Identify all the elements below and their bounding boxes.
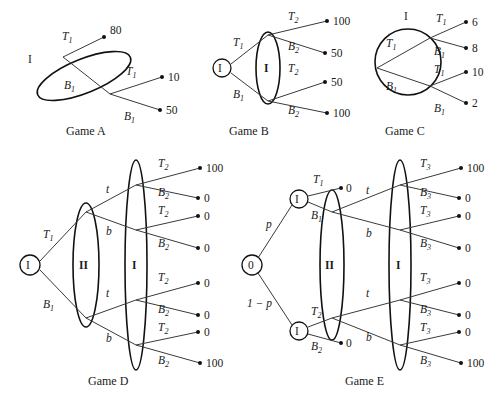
game-e-payoff-7: 0	[465, 326, 471, 338]
game-d-terminal-dot-2	[196, 196, 200, 200]
game-b-branch-label-b2-b: B2	[288, 104, 299, 119]
game-e-payoff-8: 100	[467, 357, 485, 369]
game-a-branch-label-b1: B1	[64, 79, 75, 94]
game-c-terminal-dot-2	[464, 46, 468, 50]
game-e-payoff-6: 0	[465, 309, 471, 321]
game-d-payoff-4: 0	[204, 242, 210, 254]
game-e-exit-payoff-2: 0	[346, 337, 352, 349]
game-d-edge-t-lower	[86, 300, 136, 318]
game-e-branch-label-b-upper: b	[366, 227, 372, 239]
game-d-branch-label-t-lower: t	[106, 287, 110, 299]
game-e-branch-label-b3-1: B3	[420, 186, 431, 201]
game-d-branch-label-b2-4: B2	[158, 354, 169, 369]
game-c-terminal-dot-1	[464, 20, 468, 24]
game-a-terminal-dot-2	[160, 75, 164, 79]
game-d-edge-b1	[40, 270, 86, 318]
game-c-infoset-label: I	[404, 10, 408, 22]
game-c-branch-label-t1-a: T1	[436, 12, 446, 27]
game-b-caption: Game B	[229, 124, 269, 138]
game-e-exit-payoff-1: 0	[346, 182, 352, 194]
game-b-branch-label-b2-a: B2	[288, 40, 299, 55]
game-b-terminal-dot-4	[325, 111, 329, 115]
game-d-branch-label-b1: B1	[43, 298, 54, 313]
game-d-edge-t-upper	[86, 185, 136, 212]
game-e-branch-label-b3-4: B3	[420, 354, 431, 369]
game-e-terminal-dot-1	[459, 166, 463, 170]
game-d-root-player-label: I	[26, 259, 30, 271]
game-e-branch-label-b3-3: B3	[420, 303, 431, 318]
game-d-payoff-7: 0	[204, 326, 210, 338]
game-e-payoff-1: 100	[467, 162, 485, 174]
game-e-branch-label-t-upper: t	[366, 184, 370, 196]
game-e-branch-label-t3-1: T3	[420, 157, 430, 172]
game-e-branch-label-b1: B1	[311, 209, 322, 224]
game-d-branch-label-b-lower: b	[106, 332, 112, 344]
game-e-branch-label-b2: B2	[311, 340, 322, 355]
game-d-terminal-dot-6	[196, 313, 200, 317]
game-e-branch-label-t-lower: t	[366, 287, 370, 299]
game-c-payoff-1: 6	[472, 16, 478, 28]
game-a-edge-b1-right	[110, 94, 160, 110]
game-b-group: I I T1 B1 T2 B2 T2 B2 100 50 50 100 Game…	[213, 10, 351, 138]
game-c-payoff-2: 8	[472, 42, 478, 54]
game-a-payoff-2: 10	[168, 71, 180, 83]
game-d-payoff-2: 0	[204, 192, 210, 204]
game-d-caption: Game D	[88, 374, 129, 388]
game-b-payoff-2: 50	[331, 47, 343, 59]
game-e-payoff-2: 0	[465, 192, 471, 204]
game-d-payoff-6: 0	[204, 309, 210, 321]
game-d-terminal-dot-7	[196, 330, 200, 334]
game-d-infoset-label-i: I	[132, 259, 137, 271]
game-c-terminal-dot-3	[464, 70, 468, 74]
game-tree-figure: I T1 B1 T1 B1 80 10 50 Game A I I T1 B1 …	[0, 0, 498, 401]
game-e-group: 0 I I II I	[242, 157, 485, 388]
game-d-branch-label-b-upper: b	[106, 225, 112, 237]
game-c-terminal-dot-4	[464, 101, 468, 105]
game-e-branch-label-t3-3: T3	[420, 271, 430, 286]
game-c-group: I T1 B1 T1 B1 T1 B1 6 8 10 2 Game C	[375, 10, 484, 138]
game-c-payoff-3: 10	[472, 66, 484, 78]
game-e-terminal-dot-7	[457, 330, 461, 334]
game-e-prob-label-p: p	[265, 218, 272, 231]
game-e-player-node-upper	[290, 190, 308, 208]
game-b-branch-label-t2-b: T2	[288, 62, 298, 77]
game-a-terminal-dot-1	[102, 35, 106, 39]
game-e-edge-p	[258, 205, 292, 258]
game-b-terminal-dot-1	[325, 19, 329, 23]
game-e-payoff-5: 0	[465, 277, 471, 289]
game-e-player-node-lower	[290, 322, 308, 340]
game-a-caption: Game A	[66, 124, 106, 138]
game-e-terminal-dot-5	[457, 281, 461, 285]
game-b-branch-label-b1: B1	[233, 88, 244, 103]
game-e-player-label-lower: I	[295, 325, 299, 337]
game-e-terminal-dot-6	[457, 313, 461, 317]
game-c-edge-t1	[377, 38, 430, 68]
game-d-payoff-8: 100	[206, 357, 224, 369]
game-e-caption: Game E	[345, 374, 384, 388]
game-d-branch-label-t1: T1	[43, 228, 53, 243]
game-b-payoff-4: 100	[333, 107, 351, 119]
game-e-infoset-label-ii: II	[325, 259, 334, 271]
game-d-branch-label-t2-2: T2	[158, 204, 168, 219]
game-c-edge-t1-a	[430, 22, 466, 38]
game-b-root-player-label: I	[218, 62, 222, 74]
game-a-branch-label-t1-right: T1	[126, 65, 136, 80]
game-a-branch-label-b1-right: B1	[124, 110, 135, 125]
game-b-terminal-dot-3	[323, 80, 327, 84]
game-d-payoff-1: 100	[206, 162, 224, 174]
game-e-infoset-label-i: I	[396, 259, 401, 271]
game-a-group: I T1 B1 T1 B1 80 10 50 Game A	[28, 24, 180, 138]
game-e-branch-label-b-lower: b	[366, 331, 372, 343]
game-d-terminal-dot-8	[198, 361, 202, 365]
game-a-branch-label-t1-top: T1	[62, 30, 72, 45]
game-e-payoff-3: 0	[465, 210, 471, 222]
game-e-exit-dot-2	[339, 341, 343, 345]
game-d-branch-label-b2-3: B2	[158, 303, 169, 318]
game-c-branch-label-b1: B1	[386, 80, 397, 95]
game-c-branch-label-b1-a: B1	[434, 45, 445, 60]
game-d-branch-label-t2-4: T2	[158, 321, 168, 336]
game-d-branch-label-t-upper: t	[106, 183, 110, 195]
game-d-terminal-dot-4	[196, 246, 200, 250]
game-e-branch-label-t1: T1	[313, 173, 323, 188]
game-d-branch-label-t2-3: T2	[158, 271, 168, 286]
